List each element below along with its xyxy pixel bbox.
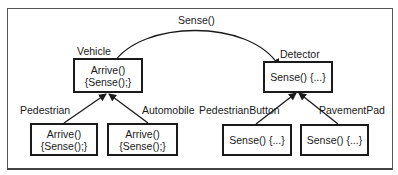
detector-class-box: Sense() {...}: [263, 61, 333, 93]
detector-class-name: Detector: [280, 48, 320, 60]
pedestrian-button-class-name: PedestrianButton: [199, 104, 280, 116]
automobile-method-body: {Sense();}: [119, 140, 166, 152]
pedestrian-class-name: Pedestrian: [20, 104, 70, 116]
pavement-pad-class-box: Sense() {...}: [300, 124, 369, 156]
pedestrian-button-method: Sense() {...}: [229, 134, 284, 146]
pavement-pad-method: Sense() {...}: [307, 134, 362, 146]
pedestrian-class-box: Arrive() {Sense();}: [30, 123, 98, 156]
vehicle-class-box: Arrive() {Sense();}: [73, 58, 143, 93]
automobile-class-name: Automobile: [142, 104, 195, 116]
automobile-class-box: Arrive() {Sense();}: [107, 123, 178, 156]
vehicle-method-body: {Sense();}: [85, 76, 132, 88]
vehicle-class-name: Vehicle: [77, 45, 111, 57]
pavement-pad-class-name: PavementPad: [319, 104, 385, 116]
detector-method: Sense() {...}: [270, 71, 325, 83]
message-label: Sense(): [178, 14, 215, 26]
vehicle-method: Arrive(): [91, 64, 125, 76]
pedestrian-method: Arrive(): [47, 128, 81, 140]
pedestrian-button-class-box: Sense() {...}: [222, 124, 292, 156]
automobile-method: Arrive(): [125, 128, 159, 140]
pedestrian-method-body: {Sense();}: [41, 140, 88, 152]
inheritance-arrow-pedestrian: [64, 94, 106, 123]
